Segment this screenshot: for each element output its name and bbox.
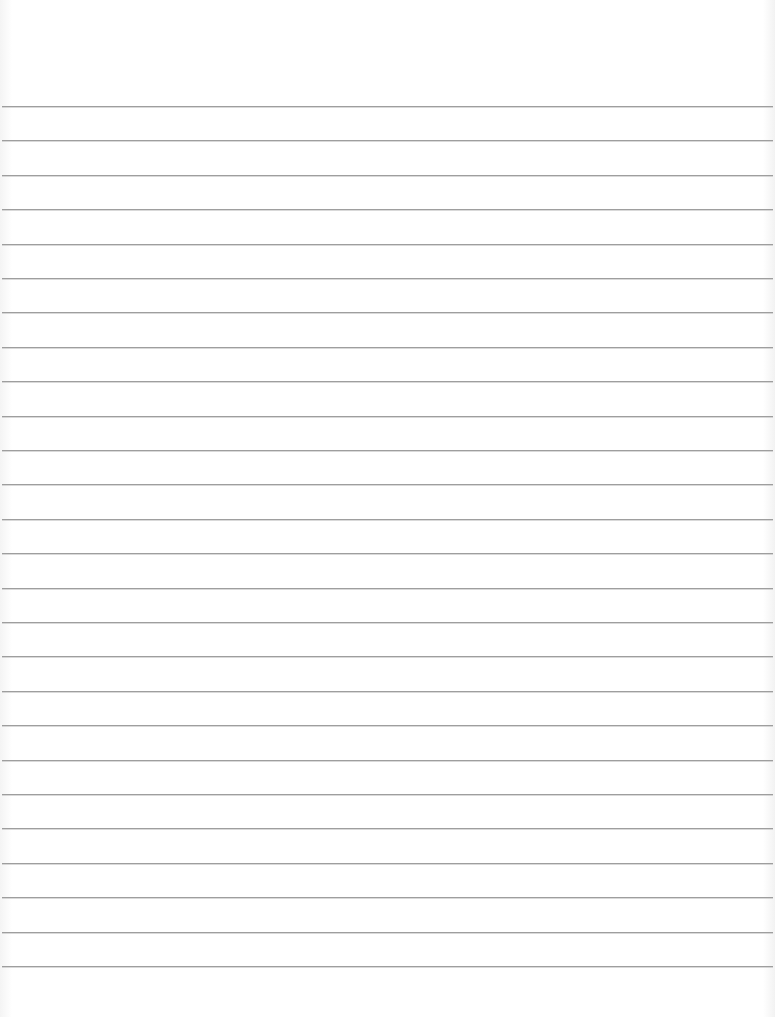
ruled-line — [2, 656, 773, 657]
ruled-line — [2, 760, 773, 761]
ruled-line — [2, 175, 773, 176]
ruled-line — [2, 519, 773, 520]
ruled-line — [2, 484, 773, 485]
ruled-line — [2, 863, 773, 864]
ruled-line — [2, 725, 773, 726]
ruled-line — [2, 244, 773, 245]
ruled-line — [2, 897, 773, 898]
ruled-line — [2, 209, 773, 210]
ruled-line — [2, 691, 773, 692]
ruled-line — [2, 278, 773, 279]
ruled-line — [2, 966, 773, 967]
ruled-line — [2, 450, 773, 451]
ruled-line — [2, 588, 773, 589]
lined-paper-sheet — [0, 0, 775, 1017]
ruled-line — [2, 932, 773, 933]
ruled-line — [2, 416, 773, 417]
ruled-line — [2, 553, 773, 554]
ruled-line — [2, 312, 773, 313]
ruled-line — [2, 106, 773, 107]
ruled-line — [2, 140, 773, 141]
ruled-line — [2, 347, 773, 348]
ruled-line — [2, 828, 773, 829]
ruled-line — [2, 381, 773, 382]
ruled-line — [2, 794, 773, 795]
ruled-line — [2, 622, 773, 623]
